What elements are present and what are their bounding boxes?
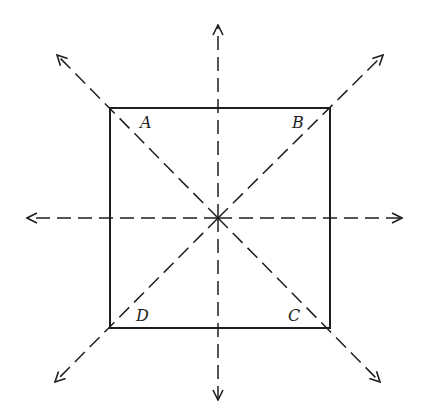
symmetry-diagram [0,0,426,416]
symmetry-axes [27,25,402,400]
vertex-label-a: A [140,115,152,131]
vertex-label-b: B [292,115,304,131]
vertex-label-c: C [288,308,300,324]
diagonal-lower-right-arrow [218,218,380,382]
diagonal-upper-left-arrow [57,55,218,218]
diagonal-lower-left-arrow [55,218,218,382]
diagonal-upper-right-arrow [218,55,383,218]
vertex-label-d: D [136,308,149,324]
